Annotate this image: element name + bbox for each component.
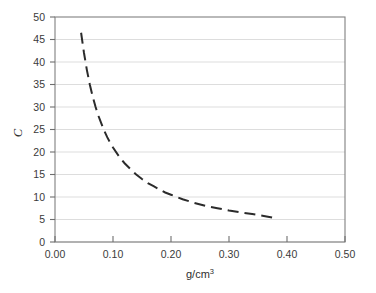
x-tick-label: 0.20 (161, 248, 182, 260)
x-axis-title-superscript: 3 (210, 267, 214, 276)
x-axis-tick-labels: 0.00 0.10 0.20 0.30 0.40 0.50 (45, 248, 356, 260)
y-tick-label: 5 (39, 213, 45, 225)
y-axis-title: C (11, 128, 25, 137)
y-tick-label: 0 (39, 236, 45, 248)
chart-canvas: 0 5 10 15 20 25 30 35 40 45 50 0.00 0.10… (0, 0, 376, 293)
y-axis-ticks (50, 17, 55, 242)
x-axis-title: g/cm3 (186, 267, 214, 280)
y-axis-tick-labels: 0 5 10 15 20 25 30 35 40 45 50 (33, 11, 45, 248)
x-tick-label: 0.00 (45, 248, 66, 260)
x-tick-label: 0.50 (335, 248, 356, 260)
y-tick-label: 35 (33, 78, 45, 90)
chart-figure: 0 5 10 15 20 25 30 35 40 45 50 0.00 0.10… (0, 0, 376, 293)
x-tick-label: 0.30 (219, 248, 240, 260)
y-tick-label: 25 (33, 123, 45, 135)
x-axis-title-base: g/cm (186, 268, 210, 280)
y-tick-label: 45 (33, 33, 45, 45)
y-tick-label: 50 (33, 11, 45, 23)
x-tick-label: 0.40 (277, 248, 298, 260)
y-tick-label: 30 (33, 101, 45, 113)
y-tick-label: 10 (33, 191, 45, 203)
y-tick-label: 15 (33, 168, 45, 180)
y-tick-label: 20 (33, 146, 45, 158)
x-tick-label: 0.10 (103, 248, 124, 260)
y-tick-label: 40 (33, 56, 45, 68)
